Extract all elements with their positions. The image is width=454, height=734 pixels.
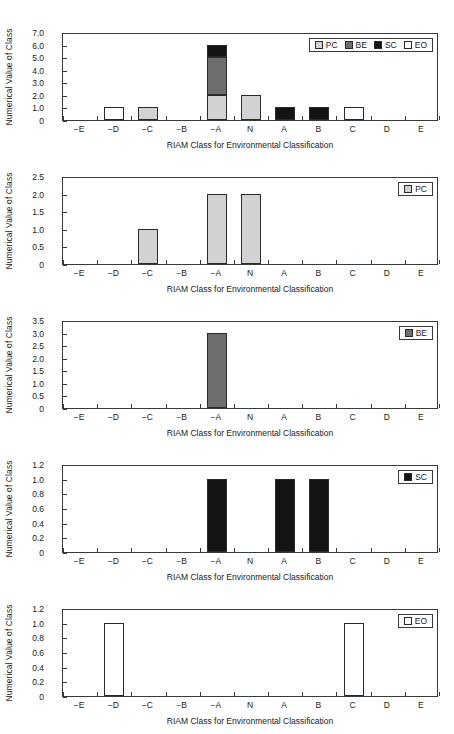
bar-slot <box>309 610 329 696</box>
bar <box>207 333 227 408</box>
x-axis-title: RIAM Class for Environmental Classificat… <box>62 284 438 294</box>
bar-slot <box>173 178 193 264</box>
x-tick-mark <box>439 260 440 264</box>
x-tick-label: −C <box>142 412 153 422</box>
legend-label: EO <box>415 617 427 626</box>
bar <box>275 479 295 552</box>
x-tick-label: E <box>418 556 424 566</box>
plot-area: SC <box>62 465 438 553</box>
x-tick-label: A <box>281 700 287 710</box>
x-tick-label: A <box>281 412 287 422</box>
x-tick-mark <box>439 116 440 120</box>
bar-slot <box>378 178 398 264</box>
y-tick-mark <box>63 409 67 410</box>
bar-slot <box>241 466 261 552</box>
bar-slot <box>275 322 295 408</box>
y-tick-label: 0 <box>39 116 44 126</box>
legend-item-eo: EO <box>404 617 427 626</box>
legend-label: EO <box>415 41 427 50</box>
bar-slot <box>207 34 227 120</box>
y-tick-label: 0.5 <box>32 391 44 401</box>
plot-area: EO <box>62 609 438 697</box>
legend-label: BE <box>416 329 427 338</box>
x-tick-label: −B <box>176 700 187 710</box>
x-axis-tick-labels: −E−D−C−B−ANABCDE <box>62 700 438 714</box>
x-axis-tick-labels: −E−D−C−B−ANABCDE <box>62 124 438 138</box>
legend-item-pc: PC <box>404 185 427 194</box>
bar-segment <box>104 107 124 120</box>
y-tick-label: 1.5 <box>32 207 44 217</box>
x-tick-label: B <box>316 556 322 566</box>
bar-slot <box>275 466 295 552</box>
y-tick-label: 1.0 <box>32 225 44 235</box>
bar <box>104 623 124 696</box>
bar-slot <box>173 610 193 696</box>
y-tick-label: 0.2 <box>32 677 44 687</box>
bar-slot <box>344 610 364 696</box>
y-axis-tick-labels: 00.20.40.60.81.01.2 <box>17 465 47 553</box>
y-tick-label: 1.5 <box>32 366 44 376</box>
x-tick-label: B <box>316 268 322 278</box>
x-tick-label: C <box>349 412 355 422</box>
chart-panel-all: Numerical Value of Class01.02.03.04.05.0… <box>0 8 454 156</box>
y-tick-mark <box>63 697 67 698</box>
bar-slot <box>275 34 295 120</box>
bar-slot <box>138 610 158 696</box>
x-tick-label: −E <box>74 556 85 566</box>
chart-panel-sc: Numerical Value of Class00.20.40.60.81.0… <box>0 440 454 588</box>
legend-item-sc: SC <box>374 41 397 50</box>
legend-swatch-eo-icon <box>404 41 412 49</box>
legend-label: PC <box>415 185 427 194</box>
bar-slot <box>309 178 329 264</box>
legend-label: SC <box>385 41 397 50</box>
legend: SC <box>398 470 433 484</box>
x-tick-label: −D <box>108 700 119 710</box>
x-tick-label: D <box>384 124 390 134</box>
bar-group <box>63 178 437 264</box>
bar-group <box>63 466 437 552</box>
legend: BE <box>399 326 433 340</box>
x-tick-label: E <box>418 124 424 134</box>
x-tick-label: −D <box>108 268 119 278</box>
y-axis-title: Numerical Value of Class <box>0 33 18 121</box>
y-axis-title-text: Numerical Value of Class <box>4 604 14 701</box>
x-tick-label: A <box>281 268 287 278</box>
legend-swatch-be-icon <box>345 41 353 49</box>
y-tick-label: 0.4 <box>32 663 44 673</box>
bar-segment <box>207 57 227 95</box>
y-tick-label: 1.0 <box>32 475 44 485</box>
x-tick-label: −E <box>74 124 85 134</box>
bar-segment <box>275 107 295 120</box>
y-tick-mark <box>63 121 67 122</box>
y-axis-title-text: Numerical Value of Class <box>4 460 14 557</box>
x-axis-title: RIAM Class for Environmental Classificat… <box>62 428 438 438</box>
y-tick-label: 2.0 <box>32 354 44 364</box>
bar <box>241 194 261 264</box>
bar-slot <box>344 322 364 408</box>
legend-item-sc: SC <box>404 473 427 482</box>
x-tick-label: −A <box>210 412 221 422</box>
y-tick-label: 2.5 <box>32 341 44 351</box>
x-tick-label: −A <box>210 700 221 710</box>
bar-slot <box>70 322 90 408</box>
x-tick-label: C <box>349 268 355 278</box>
bar-slot <box>70 34 90 120</box>
y-axis-title: Numerical Value of Class <box>0 321 18 409</box>
plot-area: BE <box>62 321 438 409</box>
y-tick-label: 0.5 <box>32 242 44 252</box>
y-axis-tick-labels: 00.51.01.52.02.5 <box>17 177 47 265</box>
bar-slot <box>241 322 261 408</box>
y-tick-label: 1.2 <box>32 460 44 470</box>
x-axis-tick-labels: −E−D−C−B−ANABCDE <box>62 556 438 570</box>
x-tick-mark <box>439 404 440 408</box>
y-tick-mark <box>63 265 67 266</box>
bar-slot <box>207 610 227 696</box>
x-tick-label: −C <box>142 700 153 710</box>
chart-panel-be: Numerical Value of Class00.51.01.52.02.5… <box>0 296 454 444</box>
x-axis-tick-labels: −E−D−C−B−ANABCDE <box>62 412 438 426</box>
y-tick-label: 1.2 <box>32 604 44 614</box>
x-tick-label: −C <box>142 556 153 566</box>
bar-slot <box>207 178 227 264</box>
y-axis-title: Numerical Value of Class <box>0 609 18 697</box>
x-tick-label: A <box>281 124 287 134</box>
